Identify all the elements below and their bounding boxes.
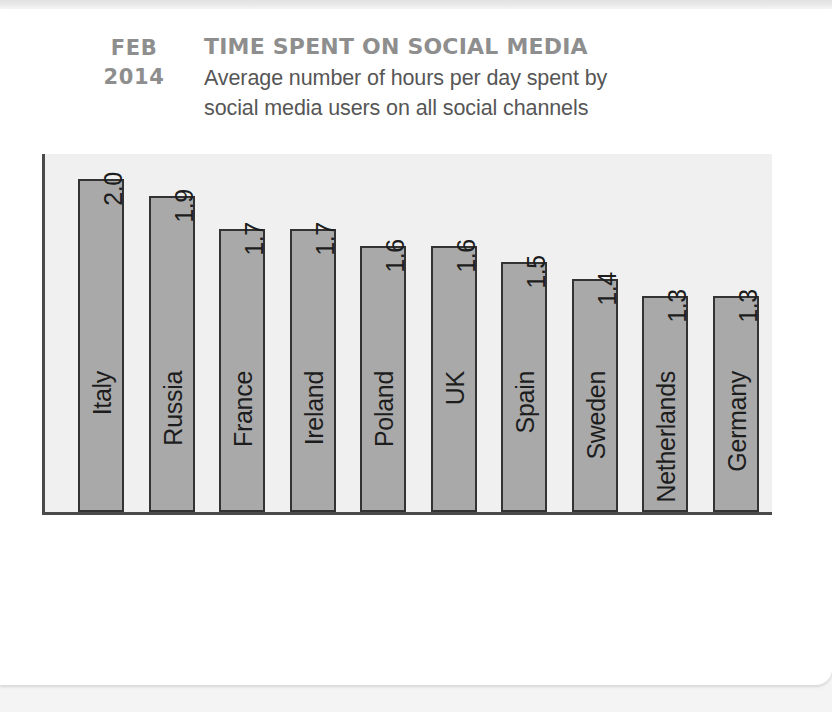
x-tick-label: Netherlands <box>654 371 679 521</box>
page-title: TIME SPENT ON SOCIAL MEDIA <box>204 30 804 63</box>
x-tick-label: Germany <box>725 371 750 521</box>
slide-card: FEB 2014 TIME SPENT ON SOCIAL MEDIA Aver… <box>0 9 832 685</box>
x-tick-label: Italy <box>90 371 115 521</box>
top-decoration-strip <box>0 0 832 9</box>
x-tick-label: France <box>231 371 256 521</box>
date-month: FEB <box>74 34 194 63</box>
bar-value-label: 1.6 <box>454 239 479 272</box>
x-tick-label-slot: UK <box>420 521 490 671</box>
x-tick-label-slot: Sweden <box>561 521 631 671</box>
x-tick-label-slot: Russia <box>138 521 208 671</box>
bar-value-label: 1.6 <box>383 239 408 272</box>
header-text-block: TIME SPENT ON SOCIAL MEDIA Average numbe… <box>204 30 804 123</box>
bar-value-label: 1.3 <box>665 289 690 322</box>
x-tick-label-slot: Poland <box>349 521 419 671</box>
bar-value-label: 1.7 <box>313 222 338 255</box>
x-tick-label: Russia <box>161 371 186 521</box>
chart-subtitle-line-1: Average number of hours per day spent by <box>204 63 804 93</box>
x-tick-label-slot: Germany <box>702 521 772 671</box>
x-tick-label-slot: Netherlands <box>631 521 701 671</box>
x-tick-label-slot: Italy <box>67 521 137 671</box>
x-tick-label-slot: France <box>208 521 278 671</box>
x-axis-tick-labels: ItalyRussiaFranceIrelandPolandUKSpainSwe… <box>42 521 772 671</box>
x-tick-label-slot: Spain <box>490 521 560 671</box>
chart-subtitle: Average number of hours per day spent by… <box>204 63 804 123</box>
x-tick-label: Spain <box>513 371 538 521</box>
x-tick-label: UK <box>443 371 468 521</box>
chart-subtitle-line-2: social media users on all social channel… <box>204 93 804 123</box>
chart-header: FEB 2014 TIME SPENT ON SOCIAL MEDIA Aver… <box>0 30 832 145</box>
date-block: FEB 2014 <box>74 34 194 92</box>
bar-value-label: 1.7 <box>242 222 267 255</box>
bar-value-label: 1.5 <box>524 255 549 288</box>
x-tick-label: Poland <box>372 371 397 521</box>
x-tick-label: Ireland <box>302 371 327 521</box>
bar-value-label: 1.3 <box>736 289 761 322</box>
bar-value-label: 1.9 <box>172 189 197 222</box>
bar-value-label: 1.4 <box>595 272 620 305</box>
date-year: 2014 <box>74 63 194 92</box>
x-tick-label: Sweden <box>584 371 609 521</box>
bar-value-label: 2.0 <box>101 172 126 205</box>
x-tick-label-slot: Ireland <box>279 521 349 671</box>
